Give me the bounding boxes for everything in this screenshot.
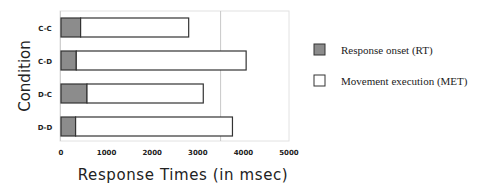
x-tick-label: 2000 <box>142 149 162 157</box>
category-label: D-C <box>38 91 52 99</box>
category-labels: C-CC-DD-CD-D <box>38 25 53 132</box>
legend-label-met: Movement execution (MET) <box>341 75 468 88</box>
legend: Response onset (RT) Movement execution (… <box>314 44 468 88</box>
bar-segment-met <box>87 84 203 103</box>
x-axis-title: Response Times (in msec) <box>78 166 289 184</box>
x-tick-label: 1000 <box>97 149 117 157</box>
category-label: D-D <box>38 124 53 132</box>
y-axis-title: Condition <box>16 40 34 112</box>
bar-segment-rt <box>61 84 87 103</box>
bar-segment-rt <box>61 117 76 136</box>
bar-segment-met <box>81 18 189 37</box>
x-tick-label: 4000 <box>234 149 254 157</box>
legend-swatch-rt <box>314 44 325 55</box>
legend-swatch-met <box>314 75 325 86</box>
bar-segment-met <box>76 117 233 136</box>
category-label: C-D <box>38 58 52 66</box>
bar-segment-met <box>76 51 246 70</box>
category-label: C-C <box>38 25 51 33</box>
x-tick-label: 0 <box>59 149 64 157</box>
legend-label-rt: Response onset (RT) <box>341 44 433 57</box>
stacked-bar-chart: C-CC-DD-CD-D 010002000300040005000 Condi… <box>0 0 490 193</box>
bars-group <box>61 18 246 136</box>
bar-segment-rt <box>61 18 81 37</box>
x-tick-label: 5000 <box>279 149 299 157</box>
x-tick-label: 3000 <box>188 149 208 157</box>
bar-segment-rt <box>61 51 76 70</box>
x-tick-labels: 010002000300040005000 <box>59 149 299 157</box>
